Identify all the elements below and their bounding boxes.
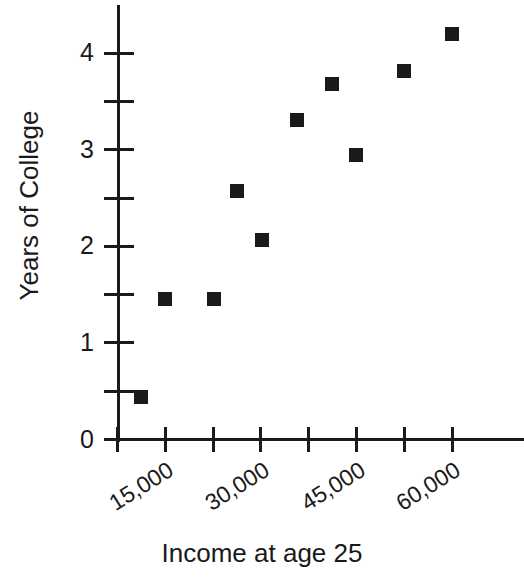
x-axis-tick xyxy=(259,427,262,452)
y-axis-major-tick xyxy=(104,245,134,248)
y-axis-tick-label: 3 xyxy=(52,137,94,162)
y-axis-major-tick xyxy=(104,52,134,55)
scatter-plot-figure: 01234 15,00030,00045,00060,000 Years of … xyxy=(0,0,524,577)
y-axis-minor-tick xyxy=(104,390,134,393)
data-point-marker xyxy=(325,77,339,91)
y-axis-minor-tick xyxy=(104,293,134,296)
x-axis-tick xyxy=(403,427,406,452)
x-axis-tick xyxy=(451,427,454,452)
x-axis-tick xyxy=(164,427,167,452)
data-point-marker xyxy=(158,292,172,306)
y-axis-major-tick xyxy=(104,438,134,441)
x-axis-tick xyxy=(355,427,358,452)
x-axis-tick-label: 60,000 xyxy=(374,458,464,526)
data-point-marker xyxy=(230,184,244,198)
y-axis-title: Years of College xyxy=(14,81,45,331)
data-point-marker xyxy=(207,292,221,306)
y-axis-minor-tick xyxy=(104,100,134,103)
x-axis-line xyxy=(117,438,524,441)
y-axis-major-tick xyxy=(104,341,134,344)
data-point-marker xyxy=(397,64,411,78)
data-point-marker xyxy=(445,27,459,41)
x-axis-tick-label: 30,000 xyxy=(183,458,273,526)
x-axis-tick-label: 45,000 xyxy=(278,458,368,526)
y-axis-tick-label: 4 xyxy=(52,40,94,65)
y-axis-major-tick xyxy=(104,148,134,151)
x-axis-tick-label: 15,000 xyxy=(87,458,177,526)
y-axis-line xyxy=(117,5,120,442)
data-point-marker xyxy=(134,390,148,404)
data-point-marker xyxy=(255,233,269,247)
y-axis-tick-label: 2 xyxy=(52,233,94,258)
data-point-marker xyxy=(349,148,363,162)
y-axis-tick-label: 1 xyxy=(52,330,94,355)
y-axis-tick-label: 0 xyxy=(52,427,94,452)
x-axis-tick xyxy=(307,427,310,452)
x-axis-tick xyxy=(212,427,215,452)
x-axis-tick xyxy=(116,427,119,452)
y-axis-minor-tick xyxy=(104,197,134,200)
data-point-marker xyxy=(290,113,304,127)
x-axis-title: Income at age 25 xyxy=(0,538,524,569)
